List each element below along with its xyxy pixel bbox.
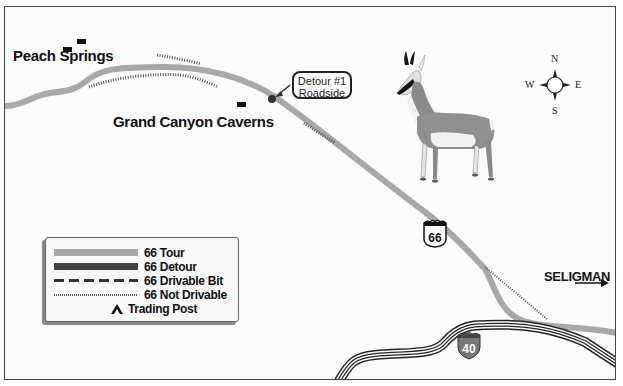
legend-swatch-not-drivable [54,294,138,296]
compass-east-label: E [575,79,581,90]
svg-text:40: 40 [462,342,476,356]
town-label-peach-springs: Peach Springs [13,47,113,64]
interstate-40-shield: 40 [458,333,480,360]
compass-south-label: S [552,105,558,116]
legend-swatch-tour [54,249,138,256]
town-label-grand-canyon-caverns: Grand Canyon Caverns [113,113,274,130]
detour-point[interactable] [268,95,276,103]
trading-post-marker [77,39,86,44]
legend-swatch-drivable [54,279,138,282]
legend-item-trading-post: Trading Post [110,302,197,315]
legend-item-drivable: 66 Drivable Bit [54,274,223,287]
detour-callout[interactable]: Detour #1 Roadside [292,71,352,99]
legend-item-detour: 66 Detour [54,260,197,273]
callout-line-1: Detour #1 [294,75,350,87]
pronghorn-antelope-illustration [397,51,495,183]
compass-rose-icon [539,69,571,101]
destination-label-seligman: SELIGMAN [544,269,610,284]
svg-text:66: 66 [428,231,442,245]
legend-item-tour: 66 Tour [54,246,184,259]
map-legend: 66 Tour 66 Detour 66 Drivable Bit 66 Not… [45,237,239,322]
compass-west-label: W [525,79,534,90]
compass-north-label: N [551,53,558,64]
us-66-shield: 66 [424,221,446,248]
trading-post-marker [237,102,246,107]
tent-icon [110,303,124,315]
map-frame: 40 66 [4,6,616,380]
legend-swatch-detour [54,263,138,270]
callout-line-2: Roadside [294,87,350,99]
not-drivable-segment-1 [157,55,201,64]
not-drivable-segment-2 [89,75,218,88]
legend-item-not-drivable: 66 Not Drivable [54,288,227,301]
